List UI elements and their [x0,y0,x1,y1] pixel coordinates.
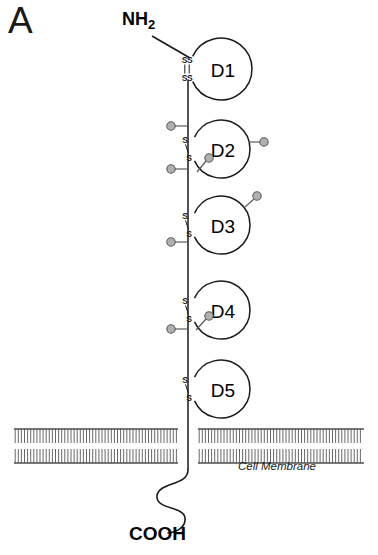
disulfide-top-label: S [182,296,188,306]
domain-d5: D5SS [182,360,250,418]
disulfide-top-label: S [182,375,188,385]
glycosylation-site [167,122,175,130]
n-terminus-label: NH2 [122,10,155,32]
protein-domain-diagram: A NH2 COOH Cell Membrane D1SSSSD2SSD3SSD… [0,0,378,555]
domain-label: D1 [211,60,235,81]
domain-d4: D4SS [167,281,250,339]
disulfide-bottom-label: S [186,314,192,324]
n-terminus-subscript: 2 [148,17,155,32]
disulfide-top-label: S [182,211,188,221]
domain-label: D5 [211,380,235,401]
glycosylation-site [253,192,261,200]
domain-d3: D3SS [167,192,261,254]
lipid-bilayer [14,429,364,463]
disulfide-bottom-label: SS [182,73,193,83]
diagram-canvas: D1SSSSD2SSD3SSD4SSD5SS [0,0,378,555]
disulfide-top-label: S [182,135,188,145]
domain-label: D4 [211,301,236,322]
disulfide-bottom-label: S [186,229,192,239]
n-terminus-text: NH [122,9,148,29]
glycosylation-site [167,238,175,246]
domain-label: D3 [211,216,235,237]
domain-group: D1SSSSD2SSD3SSD4SSD5SS [167,38,268,418]
glycosylation-site [205,312,213,320]
disulfide-bottom-label: S [186,393,192,403]
glycosylation-site [260,138,268,146]
glycosylation-site [167,325,175,333]
glycan-stalk [196,319,206,330]
glycosylation-site [167,165,175,173]
disulfide-top-label: SS [182,55,193,65]
c-terminus-label: COOH [129,524,186,543]
panel-label-a: A [8,2,33,39]
domain-d2: D2SS [167,120,268,178]
domain-d1: D1SSSS [182,38,252,100]
glycan-stalk [245,199,254,207]
glycosylation-site [205,154,213,162]
cell-membrane-label: Cell Membrane [238,460,316,472]
domain-label: D2 [211,140,235,161]
disulfide-bottom-label: S [186,153,192,163]
